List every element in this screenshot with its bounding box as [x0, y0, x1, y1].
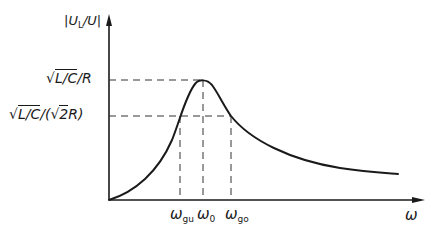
- tick-omega-gu: ωgu: [170, 207, 194, 224]
- resonance-curve: [109, 80, 398, 200]
- sqrt-icon: √: [50, 106, 59, 122]
- sqrt-icon: √: [9, 106, 18, 122]
- tick-omega-go: ωgo: [225, 207, 249, 224]
- guide-lines: [109, 80, 231, 200]
- y-axis-label: |UL/U|: [64, 14, 101, 30]
- half-power-level-label: √L/C/(√2R): [9, 107, 83, 121]
- y-axis-arrow-icon: [106, 14, 112, 26]
- peak-level-label: √L/C/R: [46, 71, 92, 85]
- tick-omega-0: ω0: [197, 207, 215, 224]
- x-axis-arrow-icon: [412, 197, 425, 203]
- x-axis-label: ω: [405, 208, 418, 223]
- sqrt-icon: √: [46, 70, 55, 86]
